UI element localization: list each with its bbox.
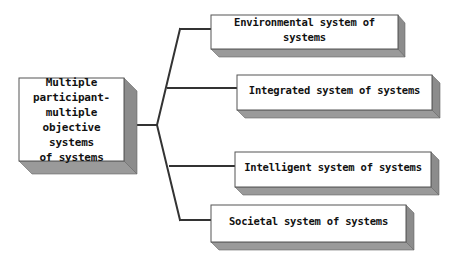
branch-node-integrated: Integrated system of systems [237, 75, 442, 120]
sos-classification-diagram: Multiple participant- multiple objective… [0, 0, 455, 262]
branch-node-intelligent: Intelligent system of systems [235, 152, 442, 197]
branch-node-societal: Societal system of systems [211, 205, 416, 252]
branch-spine-line [157, 29, 180, 220]
branch-node-label: Intelligent system of systems [235, 152, 431, 182]
branch-node-label: Societal system of systems [211, 205, 406, 237]
root-node-box: Multiple participant- multiple objective… [19, 78, 139, 176]
root-node-label: Multiple participant- multiple objective… [19, 78, 124, 161]
branch-node-environmental: Environmental system of systems [211, 15, 407, 59]
branch-node-label: Environmental system of systems [211, 15, 398, 45]
branch-node-label: Integrated system of systems [237, 75, 432, 105]
